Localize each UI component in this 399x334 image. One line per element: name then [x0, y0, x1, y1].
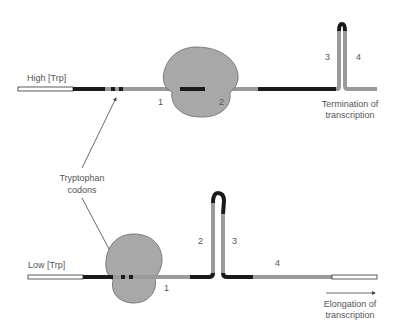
bottom-region-4-segment: [253, 275, 332, 279]
bottom-region-1-label: 1: [164, 283, 169, 293]
termination-label-line2: transcription: [325, 110, 374, 120]
top-trp-codon-2: [119, 87, 123, 91]
arrow-to-top-codons: [82, 98, 116, 168]
high-trp-label: High [Trp]: [27, 73, 66, 83]
top-ribosome: [163, 47, 238, 117]
top-region-1-label: 1: [158, 97, 163, 107]
top-region-4-label: 4: [356, 52, 361, 62]
top-panel-high-trp: High [Trp] 1 2 3 4 Termination of tra: [18, 24, 379, 120]
top-ribosome-region: [180, 87, 205, 91]
bottom-ribosome: [106, 234, 162, 303]
trp-attenuation-diagram: High [Trp] 1 2 3 4 Termination of tra: [0, 0, 399, 334]
bottom-region-4-label: 4: [275, 258, 280, 268]
codon-label-line1: Tryptophan: [59, 173, 104, 183]
bottom-region-2-label: 2: [198, 236, 203, 246]
bottom-region-3-label: 3: [232, 236, 237, 246]
bottom-trp-codon-1: [121, 275, 125, 279]
bottom-antiterminator-hairpin: [190, 193, 253, 277]
tryptophan-codons-callout: Tryptophan codons: [59, 98, 118, 266]
bottom-panel-low-trp: Low [Trp] 1 2 3 4 Elonga: [28, 193, 377, 320]
bottom-mrna-strand: [28, 275, 190, 279]
codon-label-line2: codons: [67, 185, 97, 195]
termination-label-line1: Termination of: [322, 99, 379, 109]
top-trp-codon-1: [111, 87, 115, 91]
elongation-label-line1: Elongation of: [324, 299, 377, 309]
elongation-label-line2: transcription: [325, 310, 374, 320]
top-region-2-label: 2: [219, 97, 224, 107]
bottom-trp-codon-2: [129, 275, 133, 279]
top-region-3-label: 3: [325, 52, 330, 62]
low-trp-label: Low [Trp]: [28, 260, 65, 270]
